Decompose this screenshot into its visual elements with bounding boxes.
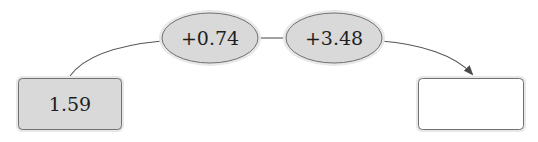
diagram-canvas xyxy=(0,0,538,142)
edge-op2-to-result xyxy=(381,41,472,74)
operation-label-2: +3.48 xyxy=(286,28,382,48)
start-value: 1.59 xyxy=(18,94,122,114)
edge-start-to-op1 xyxy=(70,41,162,76)
result-box[interactable] xyxy=(416,76,526,132)
operation-label-1: +0.74 xyxy=(162,28,258,48)
